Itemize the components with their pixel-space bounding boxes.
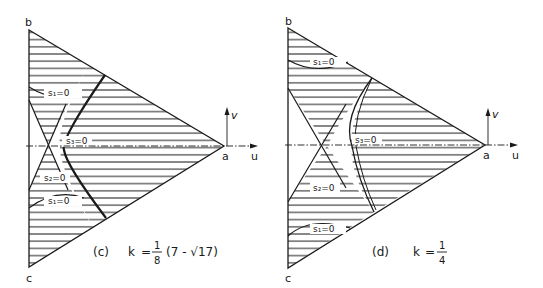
svg-text:(7 - √17): (7 - √17) (166, 245, 218, 259)
vertex-a-c: a (222, 150, 229, 163)
svg-text:=: = (141, 245, 151, 259)
s1-top-label-d: s₁=0 (313, 57, 335, 67)
svg-text:=: = (425, 245, 435, 259)
hatched-region-c (29, 30, 224, 267)
panel-d: b c a u v s₁=0 s₁=0 s₂=0 s₃=0 (d) k = 1 … (285, 15, 519, 285)
svg-text:(c): (c) (93, 245, 109, 259)
s1-top-label-c: s₁=0 (48, 88, 70, 98)
s1-bottom-label-c: s₁=0 (48, 196, 70, 206)
v-arrow-d (486, 108, 491, 116)
svg-text:k: k (128, 245, 135, 259)
s2-label-d: s₂=0 (313, 183, 335, 193)
svg-text:1: 1 (154, 240, 160, 251)
axis-u-label-d: u (512, 149, 519, 162)
axis-v-label-d: v (492, 108, 499, 121)
figure-canvas: b c a u v s₁=0 s₁=0 s₂=0 s₃=0 (c) k = 1 … (0, 0, 543, 288)
u-arrow-c (250, 144, 258, 149)
vertex-a-d: a (483, 149, 490, 162)
vertex-c-d: c (285, 272, 291, 285)
svg-text:(d): (d) (372, 245, 389, 259)
s3-label-d: s₃=0 (355, 135, 377, 145)
panel-c: b c a u v s₁=0 s₁=0 s₂=0 s₃=0 (c) k = 1 … (25, 16, 258, 285)
caption-c: (c) k = 1 8 (7 - √17) (93, 240, 218, 266)
svg-text:4: 4 (439, 255, 445, 266)
axis-u-label-c: u (251, 150, 258, 163)
svg-text:8: 8 (154, 255, 160, 266)
s1-bottom-label-d: s₁=0 (313, 224, 335, 234)
vertex-c-c: c (26, 272, 32, 285)
s2-label-c: s₂=0 (44, 173, 66, 183)
vertex-b-c: b (25, 16, 32, 29)
v-arrow-c (225, 107, 230, 115)
u-arrow-d (510, 143, 518, 148)
axis-v-label-c: v (231, 109, 238, 122)
svg-text:1: 1 (439, 240, 445, 251)
svg-text:k: k (413, 245, 420, 259)
caption-d: (d) k = 1 4 (372, 240, 447, 266)
vertex-b-d: b (285, 15, 292, 28)
s3-label-c: s₃=0 (66, 136, 88, 146)
